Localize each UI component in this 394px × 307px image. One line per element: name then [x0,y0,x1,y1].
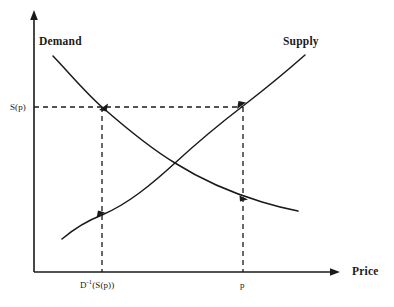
axes-group [30,10,340,276]
y-axis-arrowhead [30,10,38,20]
x-axis-tick-label-inverse-demand: D-1(S(p)) [80,281,114,290]
demand-curve-label: Demand [39,36,82,48]
inverse-demand-argument: (S(p)) [92,280,114,290]
demand-curve [53,56,298,211]
intersection-markers-group [97,101,249,218]
y-axis-tick-label-quantity: S(p) [10,103,26,112]
x-axis-arrowhead [330,268,340,276]
supply-demand-figure: Demand Supply Price S(p) D-1(S(p)) p [0,0,394,307]
inverse-demand-base: D [80,280,87,290]
x-axis-tick-label-price: p [240,281,245,290]
supply-curve-label: Supply [283,36,319,48]
x-axis-title: Price [352,266,379,278]
